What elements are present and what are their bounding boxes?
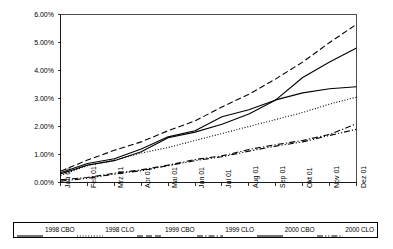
y-axis-tick-label: 6.00% [20,11,54,19]
legend-line-swatch-icon [197,226,223,234]
legend-line-swatch-icon [257,226,283,234]
legend-label: 1999 CLO [225,226,254,234]
legend-entry[interactable]: 1998 CLO [77,226,134,234]
legend-entry[interactable]: 1999 CBO [137,226,195,234]
x-axis-tick-label: Jun 01 [198,166,206,187]
y-axis-tick-label: 2.00% [20,123,54,131]
chart-figure: 0.00%1.00%2.00%3.00%4.00%5.00%6.00% Jan … [0,0,393,249]
legend-entry[interactable]: 1998 CBO [17,226,75,234]
x-axis-tick-label: Sep 01 [279,165,287,187]
x-axis-tick-label: Feb 01 [90,166,98,188]
x-axis-tick-label: Okt 01 [306,167,314,188]
x-axis-tick-label: Jul 01 [225,169,233,188]
x-axis-tick-label: Apr 01 [144,167,152,188]
x-axis-tick-label: Aug 01 [252,165,260,187]
series-line [61,24,357,171]
y-axis-tick-label: 5.00% [20,39,54,47]
x-axis-tick-label: Nov 01 [333,165,341,187]
axes [58,15,357,186]
y-axis-tick-label: 0.00% [20,179,54,187]
y-axis-tick-label: 1.00% [20,151,54,159]
legend-entry[interactable]: 1999 CLO [197,226,254,234]
legend-line-swatch-icon [317,226,343,234]
legend-line-swatch-icon [137,226,163,234]
x-axis-tick-label: Dez 01 [360,165,368,187]
series-line [61,48,357,174]
legend-line-swatch-icon [77,226,103,234]
legend-label: 2000 CBO [285,226,315,234]
series-line [61,97,357,175]
legend-entry[interactable]: 2000 CLO [317,226,374,234]
x-axis-tick-label: Jan 01 [64,166,72,187]
legend-entry[interactable]: 2000 CBO [257,226,315,234]
legend-label: 1999 CBO [165,226,195,234]
series-line [61,87,357,173]
legend-line-swatch-icon [17,226,43,234]
y-axis-tick-label: 3.00% [20,95,54,103]
series-lines [61,24,357,181]
chart-legend: 1998 CBO1998 CLO1999 CBO1999 CLO2000 CBO… [13,222,378,238]
x-axis-tick-label: Mrz 01 [117,166,125,187]
plot-area [0,0,393,249]
legend-label: 1998 CBO [45,226,75,234]
y-axis-tick-label: 4.00% [20,67,54,75]
x-axis-tick-label: Mai 01 [171,166,179,187]
legend-label: 1998 CLO [105,226,134,234]
legend-label: 2000 CLO [345,226,374,234]
